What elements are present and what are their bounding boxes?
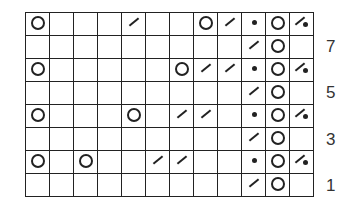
chart-cell [74, 151, 98, 174]
chart-cell [122, 59, 146, 82]
chart-cell [50, 105, 74, 128]
chart-cell [266, 174, 290, 197]
chart-cell [26, 151, 50, 174]
chart-cell [122, 13, 146, 36]
chart-cell [194, 59, 218, 82]
row-number-label: 7 [326, 37, 335, 57]
chart-cell [170, 174, 194, 197]
slash-decrease-icon [198, 60, 214, 76]
slash-dot-icon [294, 106, 310, 122]
yarn-over-icon [31, 62, 45, 76]
chart-cell [98, 13, 122, 36]
chart-cell [170, 82, 194, 105]
chart-cell [122, 82, 146, 105]
chart-cell [98, 174, 122, 197]
chart-cell [290, 174, 314, 197]
chart-row [26, 13, 314, 36]
yarn-over-icon [271, 177, 285, 191]
slash-decrease-icon [174, 152, 190, 168]
chart-cell [170, 13, 194, 36]
chart-cell [290, 128, 314, 151]
chart-cell [74, 128, 98, 151]
slash-dot-icon [294, 14, 310, 30]
chart-cell [146, 36, 170, 59]
dot-icon [246, 106, 262, 122]
chart-cell [50, 59, 74, 82]
chart-cell [146, 59, 170, 82]
chart-cell [146, 128, 170, 151]
knitting-chart-grid [25, 12, 314, 197]
chart-cell [290, 151, 314, 174]
slash-dot-icon [294, 152, 310, 168]
chart-cell [194, 151, 218, 174]
row-number-label: 1 [326, 176, 335, 196]
slash-decrease-icon [222, 60, 238, 76]
chart-cell [26, 13, 50, 36]
chart-cell [266, 13, 290, 36]
chart-row [26, 151, 314, 174]
slash-decrease-icon [198, 106, 214, 122]
chart-cell [218, 59, 242, 82]
chart-cell [242, 105, 266, 128]
chart-cell [218, 151, 242, 174]
chart-cell [98, 59, 122, 82]
chart-cell [242, 174, 266, 197]
slash-decrease-icon [246, 83, 262, 99]
row-number-label: 5 [326, 83, 335, 103]
chart-cell [266, 128, 290, 151]
chart-cell [218, 36, 242, 59]
chart-cell [26, 59, 50, 82]
yarn-over-icon [271, 108, 285, 122]
yarn-over-icon [199, 16, 213, 30]
chart-cell [242, 36, 266, 59]
chart-cell [170, 36, 194, 59]
chart-cell [74, 36, 98, 59]
dot-icon [246, 14, 262, 30]
chart-cell [266, 36, 290, 59]
chart-row [26, 36, 314, 59]
chart-cell [170, 128, 194, 151]
yarn-over-icon [271, 85, 285, 99]
chart-cell [242, 59, 266, 82]
slash-dot-icon [294, 60, 310, 76]
chart-cell [218, 105, 242, 128]
yarn-over-icon [31, 108, 45, 122]
chart-cell [242, 128, 266, 151]
chart-cell [50, 174, 74, 197]
chart-cell [290, 36, 314, 59]
row-number-label: 3 [326, 130, 335, 150]
chart-cell [146, 174, 170, 197]
chart-cell [122, 151, 146, 174]
chart-cell [170, 105, 194, 128]
yarn-over-icon [79, 154, 93, 168]
yarn-over-icon [31, 154, 45, 168]
chart-cell [122, 128, 146, 151]
chart-cell [146, 105, 170, 128]
slash-decrease-icon [126, 14, 142, 30]
slash-decrease-icon [150, 152, 166, 168]
chart-row [26, 82, 314, 105]
chart-cell [194, 36, 218, 59]
chart-cell [122, 36, 146, 59]
slash-decrease-icon [246, 129, 262, 145]
chart-cell [98, 151, 122, 174]
chart-cell [26, 36, 50, 59]
yarn-over-icon [271, 131, 285, 145]
chart-cell [242, 151, 266, 174]
chart-cell [26, 128, 50, 151]
yarn-over-icon [175, 62, 189, 76]
chart-cell [290, 82, 314, 105]
chart-row [26, 128, 314, 151]
chart-cell [98, 36, 122, 59]
slash-decrease-icon [246, 37, 262, 53]
yarn-over-icon [271, 154, 285, 168]
chart-cell [194, 174, 218, 197]
chart-cell [98, 82, 122, 105]
slash-decrease-icon [246, 175, 262, 191]
chart-cell [290, 105, 314, 128]
chart-cell [218, 82, 242, 105]
chart-cell [290, 13, 314, 36]
chart-cell [266, 151, 290, 174]
chart-cell [242, 82, 266, 105]
chart-cell [50, 151, 74, 174]
